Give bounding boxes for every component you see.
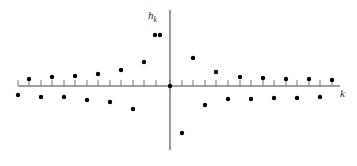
data-point [238, 75, 242, 79]
data-point [39, 95, 43, 99]
y-axis-label-subscript: k [154, 15, 157, 24]
data-point [295, 96, 299, 100]
y-axis-label: hk [148, 10, 157, 24]
data-point [272, 96, 276, 100]
data-point [131, 107, 135, 111]
data-point [226, 97, 230, 101]
data-point [214, 70, 218, 74]
data-point [119, 68, 123, 72]
impulse-response-plot: hk k [0, 0, 357, 166]
data-point [73, 74, 77, 78]
data-point [27, 77, 31, 81]
data-point [249, 97, 253, 101]
data-point [153, 33, 157, 37]
data-point [261, 76, 265, 80]
data-point [284, 77, 288, 81]
data-point [330, 78, 334, 82]
x-axis-label: k [340, 88, 345, 99]
data-point [96, 72, 100, 76]
data-point [191, 56, 195, 60]
data-point [62, 95, 66, 99]
data-point [142, 60, 146, 64]
plot-canvas [0, 0, 357, 166]
data-point [203, 103, 207, 107]
data-point [108, 100, 112, 104]
data-point [168, 84, 172, 88]
data-point [16, 93, 20, 97]
data-point [307, 77, 311, 81]
data-point [50, 75, 54, 79]
data-point [85, 98, 89, 102]
data-point [180, 131, 184, 135]
data-point [318, 95, 322, 99]
data-point [158, 33, 162, 37]
